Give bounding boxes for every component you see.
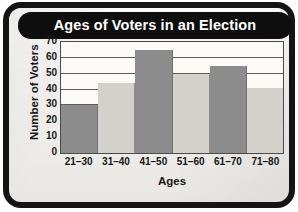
x-axis-tick-label: 71–80	[247, 155, 284, 169]
y-axis-tick-label: 0	[51, 147, 57, 157]
y-axis-tick-label: 30	[46, 99, 57, 109]
y-axis-tick-label: 70	[46, 36, 57, 46]
x-axis-tick-label: 21–30	[60, 155, 97, 169]
y-axis-tick-labels: 010203040506070	[37, 41, 57, 154]
bar	[247, 88, 283, 153]
bar-series	[61, 42, 283, 153]
y-axis-tick-label: 40	[46, 84, 57, 94]
x-axis-title: Ages	[60, 175, 284, 187]
x-axis-tick-label: 61–70	[209, 155, 246, 169]
x-axis-tick-label: 41–50	[135, 155, 172, 169]
y-axis-tick-label: 20	[46, 115, 57, 125]
bar	[135, 50, 172, 153]
bar	[61, 105, 98, 153]
x-axis-tick-label: 51–60	[172, 155, 209, 169]
y-axis-tick-label: 60	[46, 52, 57, 62]
bar	[210, 66, 247, 153]
x-axis-tick-label: 31–40	[97, 155, 134, 169]
bar	[98, 83, 135, 153]
bar	[173, 74, 210, 153]
x-axis-tick-labels: 21–3031–4041–5051–6061–7071–80	[60, 155, 284, 169]
chart-title: Ages of Voters in an Election	[54, 18, 256, 33]
y-axis-tick-label: 10	[46, 131, 57, 141]
chart-screenshot: Ages of Voters in an Election Number of …	[0, 0, 298, 212]
title-banner: Ages of Voters in an Election	[18, 12, 292, 39]
y-axis-tick-label: 50	[46, 68, 57, 78]
plot-area	[60, 41, 284, 154]
poster-frame: Ages of Voters in an Election Number of …	[3, 2, 295, 208]
bar-chart: Number of Voters 010203040506070 21–3031…	[15, 41, 295, 201]
